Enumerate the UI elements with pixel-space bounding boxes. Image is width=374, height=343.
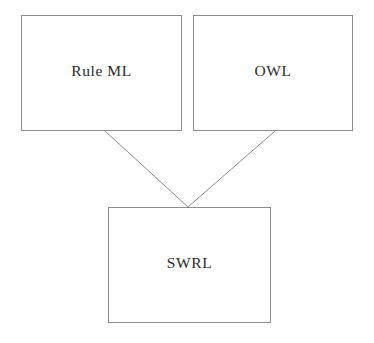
node-swrl: SWRL bbox=[108, 207, 271, 323]
diagram-canvas: Rule ML OWL SWRL bbox=[0, 0, 374, 343]
node-owl: OWL bbox=[193, 15, 353, 131]
node-owl-label: OWL bbox=[254, 63, 291, 79]
node-swrl-label: SWRL bbox=[167, 255, 212, 271]
node-rule-ml-label: Rule ML bbox=[71, 63, 132, 79]
edge-ruleml-to-swrl bbox=[105, 131, 188, 207]
edge-owl-to-swrl bbox=[188, 131, 275, 207]
node-rule-ml: Rule ML bbox=[21, 15, 182, 131]
